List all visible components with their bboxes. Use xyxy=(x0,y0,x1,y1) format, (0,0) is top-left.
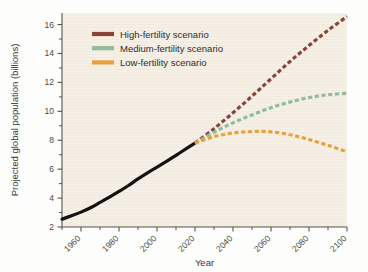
x-tick-label: 2020 xyxy=(176,233,197,254)
y-tick-label: 4 xyxy=(49,193,54,203)
y-tick-label: 2 xyxy=(49,222,54,232)
y-tick-label: 10 xyxy=(45,106,55,116)
x-axis-ticks: 19601980200020202040206020802100 xyxy=(62,227,349,254)
y-axis-ticks: 246810121416 xyxy=(45,20,62,232)
y-tick-label: 16 xyxy=(45,20,55,30)
x-tick-label: 2040 xyxy=(214,233,235,254)
y-tick-label: 8 xyxy=(49,135,54,145)
x-tick-label: 2100 xyxy=(328,233,349,254)
chart-legend: High-fertility scenarioMedium-fertility … xyxy=(92,29,223,68)
y-tick-label: 14 xyxy=(45,48,55,58)
legend-label: Medium-fertility scenario xyxy=(120,43,223,54)
x-tick-label: 2080 xyxy=(290,233,311,254)
y-tick-label: 12 xyxy=(45,77,55,87)
x-axis-title: Year xyxy=(195,257,214,268)
legend-label: High-fertility scenario xyxy=(120,29,209,40)
x-tick-label: 1980 xyxy=(100,233,121,254)
legend-label: Low-fertility scenario xyxy=(120,57,207,68)
y-axis-title: Projected global population (billions) xyxy=(9,44,20,197)
population-projection-chart: 2468101214161960198020002020204020602080… xyxy=(0,0,368,272)
x-tick-label: 2000 xyxy=(138,233,159,254)
x-tick-label: 2060 xyxy=(252,233,273,254)
x-tick-label: 1960 xyxy=(62,233,83,254)
y-tick-label: 6 xyxy=(49,164,54,174)
chart-canvas: 2468101214161960198020002020204020602080… xyxy=(0,0,368,272)
